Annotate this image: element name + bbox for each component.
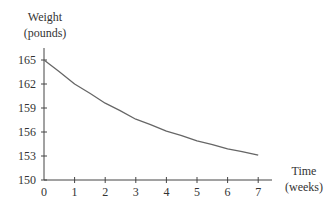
y-tick-label: 162 (18, 77, 36, 91)
x-axis-label-line-1: Time (292, 164, 317, 178)
y-ticks: 150153156159162165 (18, 53, 47, 187)
y-tick-label: 153 (18, 149, 36, 163)
y-axis-label: Weight (pounds) (24, 10, 67, 40)
weight-curve (44, 60, 258, 155)
x-axis-label-line-2: (weeks) (285, 180, 323, 194)
x-axis-label: Time (weeks) (285, 164, 323, 194)
x-tick-label: 6 (225, 185, 231, 199)
y-tick-label: 165 (18, 53, 36, 67)
weight-over-time-chart: Weight (pounds) Time (weeks) 15015315615… (0, 0, 334, 207)
x-tick-label: 7 (255, 185, 261, 199)
y-axis-label-line-2: (pounds) (24, 26, 67, 40)
x-tick-label: 3 (133, 185, 139, 199)
x-tick-label: 5 (194, 185, 200, 199)
x-tick-label: 2 (102, 185, 108, 199)
y-tick-label: 159 (18, 101, 36, 115)
y-tick-label: 150 (18, 173, 36, 187)
x-tick-label: 4 (163, 185, 169, 199)
x-tick-label: 1 (72, 185, 78, 199)
y-axis-label-line-1: Weight (28, 10, 63, 24)
y-tick-label: 156 (18, 125, 36, 139)
x-tick-label: 0 (41, 185, 47, 199)
